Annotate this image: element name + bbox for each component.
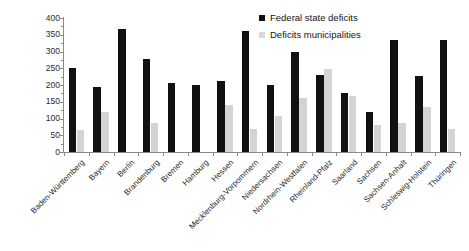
x-axis-label: Hamburg bbox=[181, 158, 211, 188]
bar bbox=[77, 130, 85, 152]
bar bbox=[398, 123, 406, 152]
bar-group bbox=[213, 18, 238, 152]
legend-item-deficits-municipalities: Deficits municipalities bbox=[259, 27, 409, 42]
bar bbox=[192, 85, 200, 152]
chart-legend: Federal state deficits Deficits municipa… bbox=[259, 10, 409, 44]
x-axis-tick-mark bbox=[237, 152, 238, 156]
bar-group bbox=[188, 18, 213, 152]
bar bbox=[101, 112, 109, 152]
bar bbox=[93, 87, 101, 152]
x-axis-tick-mark bbox=[138, 152, 139, 156]
x-axis-tick-mark bbox=[460, 152, 461, 156]
y-axis-tick-label: 0 bbox=[34, 148, 60, 157]
y-axis-tick-label: 300 bbox=[34, 47, 60, 56]
y-axis-tick-label: 150 bbox=[34, 97, 60, 106]
bar-group bbox=[114, 18, 139, 152]
bar bbox=[168, 83, 176, 152]
y-axis-tick-label: 250 bbox=[34, 64, 60, 73]
bar bbox=[250, 129, 258, 152]
bar bbox=[242, 31, 250, 152]
y-axis-tick-label: 50 bbox=[34, 131, 60, 140]
bar bbox=[217, 81, 225, 152]
bar bbox=[225, 105, 233, 152]
bar bbox=[366, 112, 374, 152]
x-axis-label: Saarland bbox=[330, 158, 359, 187]
bar bbox=[299, 98, 307, 152]
y-axis-tick-label: 200 bbox=[34, 81, 60, 90]
bar bbox=[415, 76, 423, 152]
bar-group bbox=[411, 18, 436, 152]
legend-swatch-icon bbox=[259, 15, 265, 21]
x-axis-tick-mark bbox=[213, 152, 214, 156]
x-axis-tick-mark bbox=[287, 152, 288, 156]
legend-item-federal-state-deficits: Federal state deficits bbox=[259, 10, 409, 25]
bar-group bbox=[163, 18, 188, 152]
x-axis-label: Berlin bbox=[115, 158, 136, 179]
y-axis-tick: 200 bbox=[30, 81, 60, 90]
x-axis-tick-mark bbox=[188, 152, 189, 156]
y-axis-tick: 250 bbox=[30, 64, 60, 73]
bar bbox=[374, 125, 382, 152]
x-axis-tick-mark bbox=[312, 152, 313, 156]
bar bbox=[440, 40, 448, 152]
bar bbox=[390, 40, 398, 152]
y-axis-tick: 0 bbox=[30, 148, 60, 157]
y-axis-tick: 100 bbox=[30, 114, 60, 123]
y-axis-tick-label: 400 bbox=[34, 14, 60, 23]
bar-group bbox=[138, 18, 163, 152]
bar bbox=[423, 107, 431, 152]
x-axis-tick-mark bbox=[361, 152, 362, 156]
bar bbox=[118, 29, 126, 152]
legend-label: Deficits municipalities bbox=[270, 29, 361, 40]
x-axis-tick-mark bbox=[262, 152, 263, 156]
x-axis-tick-mark bbox=[336, 152, 337, 156]
y-axis-tick: 400 bbox=[30, 14, 60, 23]
x-axis-tick-mark bbox=[114, 152, 115, 156]
y-axis-tick: 150 bbox=[30, 97, 60, 106]
bar bbox=[448, 129, 456, 152]
bar bbox=[275, 116, 283, 152]
y-axis-tick-label: 350 bbox=[34, 30, 60, 39]
bar bbox=[316, 75, 324, 152]
y-axis-tick-label: 100 bbox=[34, 114, 60, 123]
bar bbox=[291, 52, 299, 152]
bar bbox=[341, 93, 349, 152]
x-axis-label: Bayern bbox=[87, 158, 111, 182]
x-axis-tick-mark bbox=[435, 152, 436, 156]
x-axis-tick-mark bbox=[386, 152, 387, 156]
legend-label: Federal state deficits bbox=[270, 12, 358, 23]
bar-chart: 050100150200250300350400 Baden-Württembe… bbox=[0, 0, 469, 251]
bar bbox=[324, 69, 332, 152]
y-axis-tick: 350 bbox=[30, 30, 60, 39]
bar bbox=[349, 96, 357, 152]
x-axis-tick-mark bbox=[411, 152, 412, 156]
legend-swatch-icon bbox=[259, 32, 265, 38]
x-axis-tick-mark bbox=[163, 152, 164, 156]
x-axis-tick-mark bbox=[89, 152, 90, 156]
bar-group bbox=[435, 18, 460, 152]
bar-group bbox=[89, 18, 114, 152]
bar bbox=[151, 123, 159, 152]
bar bbox=[267, 85, 275, 152]
bar bbox=[143, 59, 151, 152]
y-axis-tick: 300 bbox=[30, 47, 60, 56]
bar-group bbox=[64, 18, 89, 152]
x-axis-label: Baden-Württemberg bbox=[29, 158, 86, 215]
x-axis-tick-mark bbox=[64, 152, 65, 156]
y-axis-tick: 50 bbox=[30, 131, 60, 140]
bar bbox=[69, 68, 77, 152]
